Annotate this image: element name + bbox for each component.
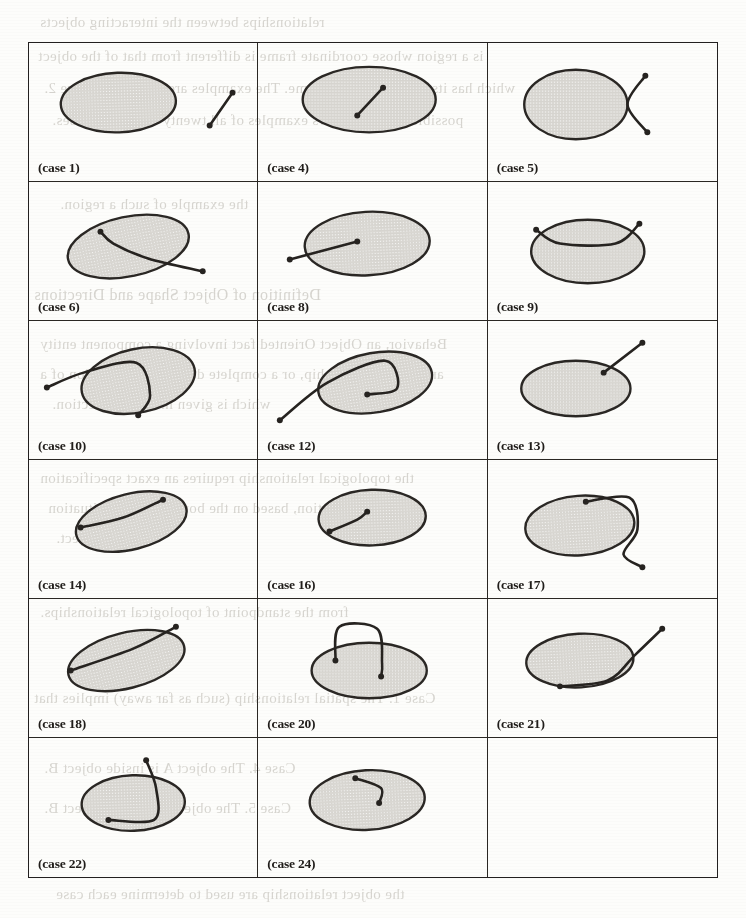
case-cell: (case 12) [258, 321, 487, 460]
object-ellipse [524, 70, 627, 139]
object-ellipse [525, 631, 635, 690]
endpoint-dot [380, 85, 386, 91]
case-label: (case 22) [38, 856, 86, 872]
object-curve [627, 76, 647, 133]
endpoint-dot [639, 564, 645, 570]
object-curve [210, 93, 233, 126]
case-cell: (case 21) [488, 599, 717, 738]
endpoint-dot [68, 668, 74, 674]
endpoint-dot [378, 673, 384, 679]
case-label: (case 12) [267, 438, 315, 454]
object-ellipse [531, 220, 644, 284]
case-cell: (case 8) [258, 182, 487, 321]
object-curve [603, 343, 642, 373]
case-cell: (case 17) [488, 460, 717, 599]
endpoint-dot [557, 683, 563, 689]
case-cell: (case 4) [258, 43, 487, 182]
endpoint-dot [376, 800, 382, 806]
endpoint-dot [365, 509, 371, 515]
object-ellipse [303, 67, 436, 133]
object-ellipse [62, 205, 195, 289]
case-cell: (case 18) [29, 599, 258, 738]
endpoint-dot [327, 529, 333, 535]
endpoint-dot [97, 229, 103, 235]
case-label: (case 17) [497, 577, 545, 593]
endpoint-dot [355, 112, 361, 118]
case-label: (case 21) [497, 716, 545, 732]
endpoint-dot [143, 757, 149, 763]
case-label: (case 20) [267, 716, 315, 732]
case-label: (case 16) [267, 577, 315, 593]
case-cell: (case 24) [258, 738, 487, 877]
case-label: (case 4) [267, 160, 309, 176]
endpoint-dot [78, 525, 84, 531]
case-label: (case 6) [38, 299, 80, 315]
endpoint-dot [600, 370, 606, 376]
endpoint-dot [639, 340, 645, 346]
endpoint-dot [287, 256, 293, 262]
endpoint-dot [636, 221, 642, 227]
endpoint-dot [207, 122, 213, 128]
endpoint-dot [44, 385, 50, 391]
case-cell: (case 10) [29, 321, 258, 460]
case-label: (case 18) [38, 716, 86, 732]
case-label: (case 24) [267, 856, 315, 872]
case-cell: (case 5) [488, 43, 717, 182]
case-label: (case 9) [497, 299, 539, 315]
case-cell: (case 16) [258, 460, 487, 599]
object-ellipse [314, 343, 438, 422]
object-ellipse [312, 643, 427, 699]
object-ellipse [318, 488, 427, 547]
case-cell: (case 9) [488, 182, 717, 321]
endpoint-dot [230, 90, 236, 96]
case-label: (case 13) [497, 438, 545, 454]
case-cell: (case 14) [29, 460, 258, 599]
endpoint-dot [277, 417, 283, 423]
case-label: (case 5) [497, 160, 539, 176]
endpoint-dot [365, 391, 371, 397]
case-figure-table: (case 1)(case 4)(case 5)(case 6)(case 8)… [28, 42, 718, 878]
case-cell: (case 13) [488, 321, 717, 460]
case-label: (case 1) [38, 160, 80, 176]
object-ellipse [523, 492, 636, 559]
object-ellipse [70, 481, 193, 562]
endpoint-dot [105, 817, 111, 823]
case-cell: (case 22) [29, 738, 258, 877]
object-ellipse [75, 338, 201, 424]
case-cell: (case 1) [29, 43, 258, 182]
endpoint-dot [160, 497, 166, 503]
endpoint-dot [353, 775, 359, 781]
endpoint-dot [135, 412, 141, 418]
object-ellipse [303, 209, 431, 279]
endpoint-dot [333, 658, 339, 664]
endpoint-dot [644, 129, 650, 135]
object-ellipse [308, 767, 426, 833]
object-ellipse [62, 619, 191, 702]
endpoint-dot [642, 73, 648, 79]
case-cell: (case 20) [258, 599, 487, 738]
case-label: (case 14) [38, 577, 86, 593]
endpoint-dot [355, 239, 361, 245]
case-label: (case 10) [38, 438, 86, 454]
endpoint-dot [582, 499, 588, 505]
object-ellipse [60, 71, 177, 135]
case-cell-empty [488, 738, 717, 877]
endpoint-dot [200, 268, 206, 274]
case-cell: (case 6) [29, 182, 258, 321]
object-ellipse [521, 361, 630, 417]
object-ellipse [81, 773, 186, 832]
endpoint-dot [659, 626, 665, 632]
case-label: (case 8) [267, 299, 309, 315]
bleed-line: the object relationship are used to dete… [56, 886, 405, 903]
bleed-line: relationships between the interacting ob… [40, 14, 325, 31]
endpoint-dot [533, 227, 539, 233]
endpoint-dot [173, 624, 179, 630]
